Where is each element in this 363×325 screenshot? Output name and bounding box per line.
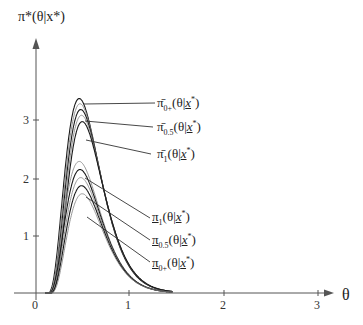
x-tick-2: 2 — [220, 299, 226, 311]
x-axis-label: θ — [342, 287, 350, 303]
label-lower-05: π0.5(θ|x*) — [152, 233, 196, 250]
leader-lines — [84, 103, 155, 262]
label-lower-1: π1(θ|x*) — [152, 210, 190, 227]
label-lower-0plus: π0+(θ|x*) — [152, 256, 194, 273]
label-upper-0plus: π̄0+(θ|x*) — [157, 96, 199, 113]
x-tick-1: 1 — [125, 299, 131, 311]
y-tick-1: 1 — [23, 230, 29, 242]
y-axis-label: π*(θ|x*) — [18, 10, 65, 24]
x-tick-3: 3 — [314, 299, 320, 311]
label-upper-1: π̄1(θ|x*) — [157, 147, 195, 164]
y-tick-2: 2 — [23, 173, 29, 185]
y-tick-3: 3 — [23, 114, 29, 126]
x-axis-arrow-icon — [324, 290, 334, 297]
label-upper-05: π̄0.5(θ|x*) — [157, 120, 201, 137]
x-tick-0: 0 — [32, 299, 38, 311]
y-axis-arrow-icon — [33, 38, 40, 49]
